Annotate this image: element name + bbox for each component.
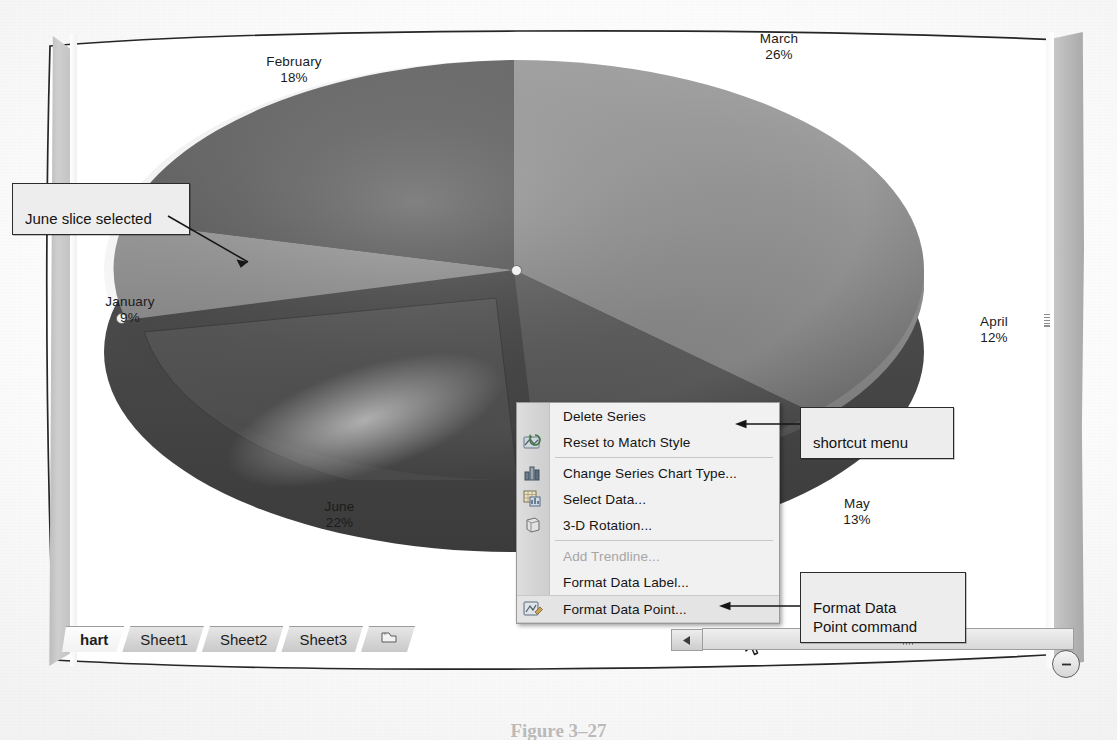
callout-shortcut-menu: shortcut menu — [800, 407, 954, 459]
callout-format-data-point: Format Data Point command — [800, 572, 966, 643]
figure-caption: Figure 3–27 — [0, 720, 1117, 740]
scanned-page: February 18% March 26% April 12% May 13%… — [0, 0, 1117, 740]
